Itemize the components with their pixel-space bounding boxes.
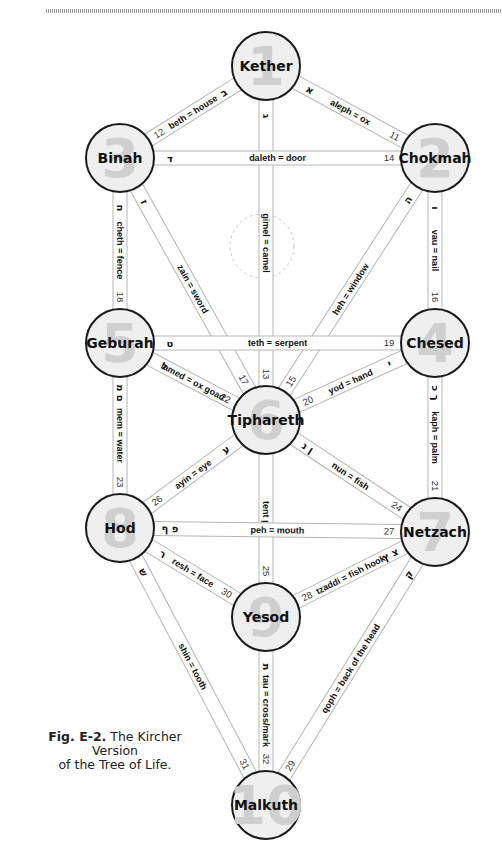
sephirah-binah: 3Binah (86, 124, 154, 192)
path-label: ayin = eye (173, 457, 214, 491)
path-25: tent peg25 (259, 452, 273, 585)
sephirah-name: Tiphareth (228, 412, 305, 428)
hebrew-letter: ו (430, 206, 441, 209)
path-16: vau = nail16ו (428, 190, 442, 311)
path-label: shin = tooth (176, 642, 209, 692)
path-label: kaph = palm (430, 411, 440, 463)
path-27: peh = mouth27פ ף (152, 521, 403, 538)
path-number: 14 (384, 152, 395, 163)
path-label: lamed = ox goad (159, 361, 226, 403)
hebrew-letter: ך כ (430, 386, 441, 401)
sephirah-name: Binah (98, 150, 143, 166)
path-label: vau = nail (430, 230, 440, 271)
path-number: 32 (261, 754, 272, 765)
path-label: tau = cross/mark (261, 675, 271, 748)
sephirah-chokmah: 2Chokmah (398, 124, 471, 192)
figure-label: Fig. E-2. (48, 729, 106, 744)
sephirah-name: Chokmah (398, 150, 471, 166)
path-number: 16 (430, 292, 441, 303)
sephirah-name: Chesed (406, 335, 464, 351)
path-number: 19 (384, 337, 395, 348)
hebrew-letter: ד (167, 153, 173, 164)
sephirah-chesed: 4Chesed (401, 309, 469, 377)
path-number: 21 (430, 481, 441, 492)
path-19: teth = serpent19ט (152, 336, 403, 350)
sephirah-netzach: 7Netzach (401, 498, 469, 566)
path-label: nun = fish (330, 460, 371, 492)
hebrew-letter: ת (261, 664, 272, 671)
path-number: 23 (115, 477, 126, 488)
hebrew-letter: ח (115, 205, 126, 212)
path-label: daleth = door (249, 153, 306, 163)
path-label: tzaddi = fish hook (314, 553, 388, 597)
sephirah-yesod: 9Yesod (232, 583, 300, 651)
hebrew-letter: פ ף (162, 523, 179, 534)
sephirah-name: Yesod (242, 609, 289, 625)
figure-caption: Fig. E-2. The Kircher Version of the Tre… (40, 730, 190, 772)
path-29: qoph = back of the head29ק (277, 556, 424, 782)
hebrew-letter: ם מ (115, 384, 126, 402)
path-label: peh = mouth (251, 525, 305, 536)
path-number: 25 (261, 566, 272, 577)
sephirah-name: Hod (104, 520, 135, 536)
path-label: teth = serpent (248, 338, 307, 348)
sephirah-name: Netzach (403, 524, 467, 540)
path-12: beth = house12ב (143, 77, 242, 147)
path-label: zain = sword (175, 263, 210, 315)
sephirah-name: Geburah (86, 335, 153, 351)
path-11: aleph = ox11א (291, 75, 410, 149)
path-label: heh = window (330, 261, 371, 317)
hebrew-letter: ט (167, 338, 174, 349)
hebrew-letter: ג (261, 114, 272, 119)
sephirah-name: Malkuth (234, 797, 298, 813)
path-21: kaph = palm21ך כ (428, 375, 442, 500)
path-26: ayin = eye26ע (142, 433, 245, 514)
path-number: 27 (384, 526, 395, 537)
sephirah-kether: 1Kether (232, 32, 300, 100)
path-number: 13 (261, 369, 272, 380)
path-23: mem = water23ם מ (113, 375, 127, 496)
path-label: resh = face (170, 556, 216, 589)
path-label: mem = water (115, 408, 125, 463)
path-label: qoph = back of the head (319, 622, 382, 715)
sephirah-hod: 8Hod (86, 494, 154, 562)
path-label: gimel = camel (261, 213, 271, 272)
sephirah-geburah: 5Geburah (86, 309, 154, 377)
path-32: tau = cross/mark32ת (259, 649, 273, 773)
sephirah-name: Kether (239, 58, 292, 74)
path-label: beth = house (167, 93, 220, 131)
sephirah-malkuth: 10Malkuth (228, 771, 303, 839)
path-24: nun = fish24ן נ (289, 432, 412, 520)
path-number: 18 (115, 292, 126, 303)
caption-line-2: of the Tree of Life. (40, 758, 190, 772)
path-14: daleth = door14ד (152, 151, 403, 165)
path-label: cheth = fence (115, 222, 125, 280)
caption-line-1: The Kircher Version (92, 729, 182, 758)
path-18: cheth = fence18ח (113, 190, 127, 311)
